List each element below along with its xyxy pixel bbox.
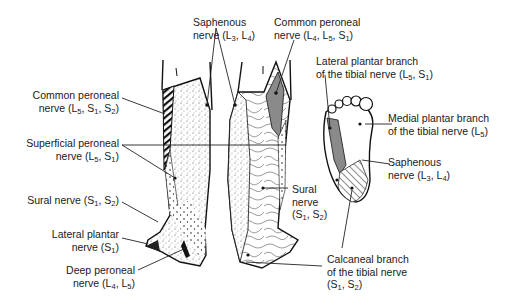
label-calcaneal-branch: Calcaneal branch of the tibial nerve (S1… bbox=[327, 253, 409, 291]
label-saphenous-foot: Saphenous nerve (L3, L4) bbox=[388, 156, 450, 181]
label-sural-nerve-posterior: Sural nerve (S1, S2) bbox=[292, 183, 327, 221]
label-sural-nerve-anterior: Sural nerve (S1, S2) bbox=[27, 194, 119, 207]
label-deep-peroneal: Deep peroneal nerve (L4, L5) bbox=[66, 264, 135, 289]
label-lateral-plantar-nerve: Lateral plantar nerve (S1) bbox=[52, 228, 119, 253]
plantar-foot-illustration bbox=[324, 96, 373, 202]
label-common-peroneal-anterior: Common peroneal nerve (L5, S1, S2) bbox=[33, 89, 119, 114]
left-leg-illustration bbox=[146, 60, 212, 266]
posterior-leg-illustration bbox=[228, 60, 298, 268]
label-superficial-peroneal: Superficial peroneal nerve (L5, S1) bbox=[26, 137, 119, 162]
label-saphenous-top: Saphenous nerve (L3, L4) bbox=[193, 16, 255, 41]
label-common-peroneal-posterior: Common peroneal nerve (L4, L5, S1) bbox=[274, 16, 360, 41]
label-lateral-plantar-branch: Lateral plantar branch of the tibial ner… bbox=[316, 55, 433, 80]
label-medial-plantar-branch: Medial plantar branch of the tibial nerv… bbox=[388, 112, 489, 137]
